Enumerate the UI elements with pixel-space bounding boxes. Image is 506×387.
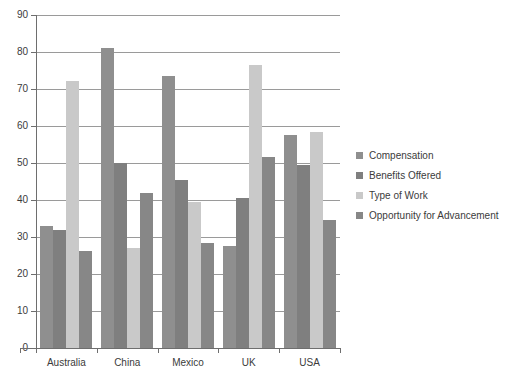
- x-axis-tick-mark: [36, 348, 37, 353]
- bar: [201, 243, 214, 348]
- legend-item[interactable]: Opportunity for Advancement: [356, 210, 499, 221]
- y-axis-tick-label: 90: [0, 9, 28, 20]
- bar-chart: 9080706050403020100 AustraliaChinaMexico…: [0, 0, 506, 387]
- bar: [53, 230, 66, 348]
- bar: [175, 180, 188, 348]
- bar: [323, 220, 336, 348]
- legend-swatch-icon: [356, 152, 363, 159]
- legend-swatch-icon: [356, 192, 363, 199]
- bar: [114, 163, 127, 348]
- bar: [79, 251, 92, 348]
- bar: [127, 248, 140, 348]
- bar-group-mexico: [158, 15, 219, 348]
- x-axis-label-china: China: [97, 357, 158, 368]
- legend-item[interactable]: Benefits Offered: [356, 170, 499, 181]
- x-axis-tick-mark: [340, 348, 341, 353]
- bar: [101, 48, 114, 348]
- bar: [284, 135, 297, 348]
- x-axis-origin-tick: [20, 348, 21, 353]
- legend-swatch-icon: [356, 172, 363, 179]
- x-axis-tick-mark: [279, 348, 280, 353]
- bar-group-australia: [36, 15, 97, 348]
- legend-item[interactable]: Type of Work: [356, 190, 499, 201]
- bar-group-uk: [218, 15, 279, 348]
- bar: [310, 132, 323, 348]
- bar-group-usa: [279, 15, 340, 348]
- x-axis-label-uk: UK: [218, 357, 279, 368]
- y-axis-tick-label: 80: [0, 46, 28, 57]
- chart-legend: CompensationBenefits OfferedType of Work…: [356, 150, 499, 221]
- bar: [262, 157, 275, 348]
- legend-label: Type of Work: [369, 190, 428, 201]
- y-axis-tick-label: 70: [0, 83, 28, 94]
- bar: [223, 246, 236, 348]
- x-axis-label-mexico: Mexico: [158, 357, 219, 368]
- bar: [66, 81, 79, 349]
- legend-label: Benefits Offered: [369, 170, 441, 181]
- y-axis-tick-label: 60: [0, 120, 28, 131]
- x-axis-tick-mark: [218, 348, 219, 353]
- bar: [297, 165, 310, 348]
- x-axis-label-usa: USA: [279, 357, 340, 368]
- y-axis-tick-label: 10: [0, 305, 28, 316]
- legend-label: Opportunity for Advancement: [369, 210, 499, 221]
- legend-item[interactable]: Compensation: [356, 150, 499, 161]
- y-axis-tick-label: 50: [0, 157, 28, 168]
- bar: [162, 76, 175, 348]
- bar: [188, 202, 201, 348]
- x-axis-line: [20, 348, 341, 349]
- x-axis-tick-mark: [158, 348, 159, 353]
- x-axis-label-australia: Australia: [36, 357, 97, 368]
- bar: [140, 193, 153, 348]
- y-axis-tick-label: 30: [0, 231, 28, 242]
- bar-group-china: [97, 15, 158, 348]
- bar: [236, 198, 249, 348]
- legend-swatch-icon: [356, 212, 363, 219]
- bar-series-container: [36, 15, 340, 348]
- legend-label: Compensation: [369, 150, 433, 161]
- x-axis-tick-mark: [97, 348, 98, 353]
- y-axis-tick-label: 40: [0, 194, 28, 205]
- bar: [40, 226, 53, 348]
- bar: [249, 65, 262, 348]
- y-axis-tick-label: 20: [0, 268, 28, 279]
